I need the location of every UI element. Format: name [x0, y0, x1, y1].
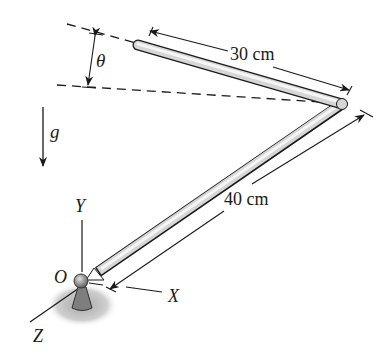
label-theta: θ [96, 51, 105, 70]
label-gravity: g [50, 122, 60, 141]
x-axis-line-far [126, 287, 162, 292]
theta-dimension-arrow [88, 36, 95, 85]
dimension-30cm-tick-right [347, 86, 352, 95]
label-axis-y: Y [75, 197, 85, 215]
label-axis-z: Z [33, 327, 43, 345]
label-40cm: 40 cm [224, 190, 269, 208]
diagram-canvas [0, 0, 391, 357]
label-axis-x: X [168, 287, 179, 305]
rod-long-highlight [101, 104, 340, 269]
label-origin-o: O [54, 268, 67, 286]
pivot-ball [74, 274, 88, 288]
rod-bend [337, 99, 348, 110]
label-30cm: 30 cm [230, 45, 275, 63]
dashed-line-rod-extension [67, 24, 136, 43]
